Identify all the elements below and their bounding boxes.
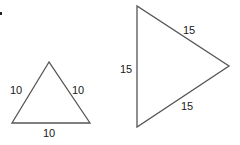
large-left-side-label: 15: [120, 63, 132, 75]
large-triangle: 15 15 15: [120, 6, 229, 127]
small-bottom-side-label: 10: [43, 127, 55, 139]
dot-mark: [0, 12, 2, 15]
small-triangle: 10 10 10: [10, 62, 90, 139]
large-lower-side-label: 15: [181, 100, 193, 112]
small-right-side-label: 10: [72, 84, 84, 96]
small-left-side-label: 10: [10, 84, 22, 96]
triangle-diagram: 10 10 10 15 15 15: [0, 0, 240, 145]
large-upper-side-label: 15: [183, 24, 195, 36]
